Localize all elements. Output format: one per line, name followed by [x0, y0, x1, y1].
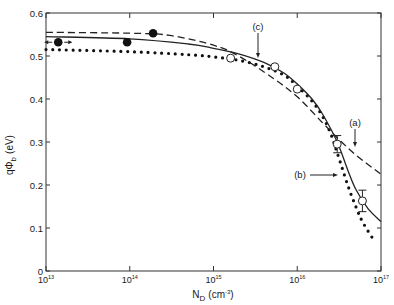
y-tick-label: 0.6 [30, 8, 43, 19]
barrier-height-chart: 00.10.20.30.40.50.610131014101510161017 … [0, 0, 394, 305]
y-axis-label: qΦb(eV) [4, 135, 18, 175]
curve-b-dotted [46, 50, 373, 239]
arrow-icon [353, 142, 357, 147]
y-tick-label: 0.5 [30, 51, 43, 62]
x-tick-label: 1017 [373, 274, 389, 285]
open-data-point [293, 85, 301, 93]
plot-frame [46, 13, 381, 271]
arrow-icon [333, 173, 338, 177]
curve-c-solid [46, 37, 381, 222]
y-tick-label: 0.2 [30, 180, 43, 191]
x-tick-label: 1015 [205, 274, 221, 285]
curve-label: (c) [252, 21, 263, 32]
curve-label: (a) [349, 117, 361, 128]
x-tick-label: 1013 [38, 274, 54, 285]
open-data-point [358, 197, 366, 205]
filled-data-point [123, 38, 132, 47]
x-tick-label: 1014 [122, 274, 138, 285]
open-data-point [271, 63, 279, 71]
open-data-point [227, 54, 235, 62]
plot-markers [44, 29, 366, 212]
y-tick-label: 0.4 [30, 94, 43, 105]
filled-data-point [149, 29, 158, 38]
plot-annotations: (a)(b)(c) [252, 21, 360, 180]
y-tick-label: 0.3 [30, 137, 43, 148]
plot-curves [46, 32, 381, 239]
y-tick-label: 0.1 [30, 223, 43, 234]
right-arrow-icon [68, 40, 72, 44]
x-axis-label: ND(cm-3) [192, 289, 233, 303]
x-tick-label: 1016 [289, 274, 305, 285]
curve-a-dashed [46, 32, 381, 174]
curve-label: (b) [294, 169, 306, 180]
arrow-icon [256, 53, 260, 58]
filled-data-point [54, 38, 63, 47]
open-data-point [333, 140, 341, 148]
